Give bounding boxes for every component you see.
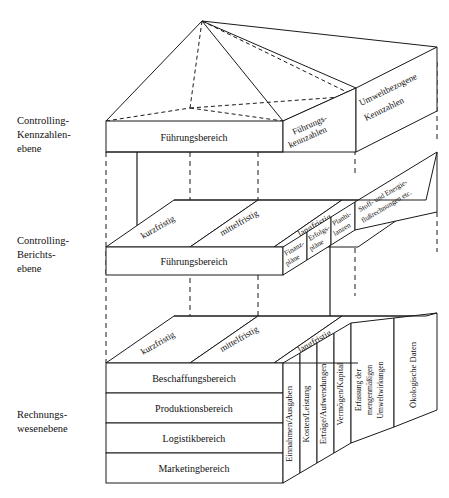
level-label-line: ebene bbox=[17, 263, 42, 274]
rw-panel-erfassung-l3: Umweltwirkungen bbox=[376, 361, 385, 418]
level-label-line: Controlling- bbox=[17, 235, 69, 246]
level-kennzahlen-slab: Führungsbereich Führungs- kennzahlen Umw… bbox=[106, 47, 437, 152]
level-label-line: ebene bbox=[17, 143, 42, 154]
rw-row-beschaffung-label: Beschaffungsbereich bbox=[152, 373, 236, 384]
level-label-berichtsebene: Controlling- Berichts- ebene bbox=[17, 235, 69, 274]
rw-row-produktion-label: Produktionsbereich bbox=[155, 403, 233, 414]
level-label-line: Berichts- bbox=[17, 249, 56, 260]
rw-panel-vermoegen-label: Vermögen/Kapital bbox=[335, 362, 345, 426]
level-berichte-slab: kurzfristig mittelfristig langfristig Fü… bbox=[106, 152, 437, 275]
pyramid-edge-mid-right bbox=[202, 21, 356, 88]
rw-row-marketing-label: Marketingbereich bbox=[158, 463, 229, 474]
level-label-line: wesenebene bbox=[17, 423, 68, 434]
rw-panel-ertraege-label: Erträge/Aufwendungen bbox=[318, 363, 328, 444]
pyramid-edge-left-front bbox=[106, 21, 202, 121]
rw-panel-einnahmen-label: Einnahmen/Ausgaben bbox=[284, 385, 294, 462]
level-label-line: Kennzahlen- bbox=[17, 129, 71, 140]
berichte-front-box-label: Führungsbereich bbox=[160, 256, 227, 267]
level-label-kennzahlenebene: Controlling- Kennzahlen- ebene bbox=[17, 115, 71, 154]
kennzahlen-front-box-label: Führungsbereich bbox=[160, 132, 227, 143]
controlling-pyramid-diagram: Controlling- Kennzahlen- ebene Controlli… bbox=[0, 0, 449, 498]
rw-panel-oekologische-label: Ökologische Daten bbox=[408, 341, 418, 408]
pyramid-hidden-edge-right bbox=[202, 21, 355, 96]
level-label-rechnungswesenebene: Rechnungs- wesenebene bbox=[17, 409, 68, 434]
rw-panel-erfassung-l1: Erfassung der bbox=[354, 369, 363, 411]
rw-row-logistik-label: Logistikbereich bbox=[163, 433, 226, 444]
rw-panel-erfassung-l2: mengenmäßigen bbox=[365, 365, 374, 415]
diagram-page: Controlling- Kennzahlen- ebene Controlli… bbox=[0, 0, 449, 498]
level-label-line: Controlling- bbox=[17, 115, 69, 126]
pyramid-edge-top-right bbox=[202, 21, 437, 47]
level-label-line: Rechnungs- bbox=[17, 409, 68, 420]
level-rechnungswesen-slab: kurzfristig mittelfristig langfristig Be… bbox=[106, 313, 437, 483]
pyramid-hidden-edge-center bbox=[190, 21, 202, 108]
rw-panel-kosten-label: Kosten/Leistung bbox=[301, 385, 311, 443]
